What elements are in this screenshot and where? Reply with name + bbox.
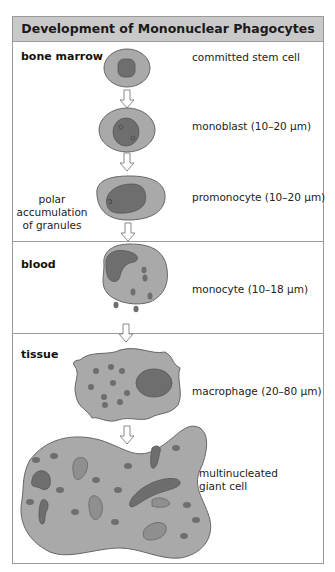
- section-label-blood: blood: [21, 258, 56, 271]
- section-label-tissue: tissue: [21, 348, 58, 361]
- giant-cell-icon: [21, 426, 211, 558]
- annotation-line3: of granules: [16, 219, 88, 232]
- stage-label-promonocyte: promonocyte (10–20 μm): [192, 191, 325, 204]
- arrow-down-icon: [119, 324, 133, 342]
- promonocyte-icon: [97, 176, 165, 220]
- section-label-bone-marrow: bone marrow: [21, 50, 103, 63]
- macrophage-icon: [73, 349, 180, 422]
- arrow-down-icon: [120, 90, 134, 108]
- committed-stem-cell-icon: [104, 49, 150, 87]
- giant-cell-label-line2: giant cell: [199, 480, 278, 493]
- monoblast-icon: [99, 108, 155, 152]
- polar-granules-annotation: polar accumulation of granules: [16, 193, 88, 232]
- stage-label-committed-stem-cell: committed stem cell: [192, 51, 300, 64]
- stage-label-macrophage: macrophage (20–80 μm): [192, 385, 322, 398]
- arrow-down-icon: [120, 426, 134, 444]
- arrow-down-icon: [120, 153, 134, 171]
- monocyte-icon: [103, 244, 167, 312]
- annotation-line1: polar: [16, 193, 88, 206]
- arrow-down-icon: [121, 223, 135, 241]
- annotation-line2: accumulation: [16, 206, 88, 219]
- giant-cell-label-line1: multinucleated: [199, 467, 278, 480]
- stage-label-giant-cell: multinucleated giant cell: [199, 467, 278, 493]
- stage-label-monoblast: monoblast (10–20 μm): [192, 120, 311, 133]
- stage-label-monocyte: monocyte (10–18 μm): [192, 283, 308, 296]
